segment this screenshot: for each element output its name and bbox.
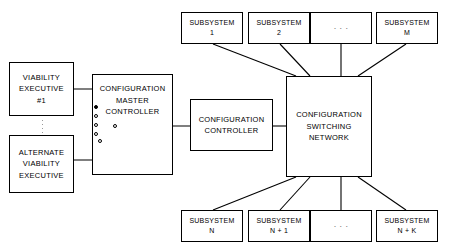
configuration-master-controller-box[interactable]: CONFIGURATION MASTER CONTROLLER <box>92 74 173 175</box>
subsystem-bottom-ellipsis-label: · · · <box>333 221 348 231</box>
subsystem-top-4-box[interactable]: SUBSYSTEM M <box>376 12 438 44</box>
configuration-master-controller-line2: MASTER <box>116 95 149 107</box>
subsystem-bottom-1-line2: N <box>209 226 214 236</box>
executive-continuation-ellipsis <box>38 118 46 134</box>
configuration-controller-box[interactable]: CONFIGURATION CONTROLLER <box>190 99 273 151</box>
switch-contact-4[interactable] <box>94 132 98 136</box>
viability-executive-primary-line3: #1 <box>37 95 46 107</box>
configuration-switching-network-line3: NETWORK <box>309 132 349 144</box>
configuration-master-controller-line3: CONTROLLER <box>106 106 160 118</box>
viability-executive-primary-line2: EXECUTIVE <box>19 83 64 95</box>
subsystem-top-2-box[interactable]: SUBSYSTEM 2 <box>248 12 310 44</box>
wire-csn-to-subsystem-bottom-1 <box>213 177 296 210</box>
subsystem-bottom-ellipsis-box: · · · <box>310 210 372 242</box>
configuration-switching-network-line1: CONFIGURATION <box>296 109 362 121</box>
switch-contact-3[interactable] <box>94 123 98 127</box>
subsystem-top-1-line1: SUBSYSTEM <box>190 18 235 28</box>
configuration-master-controller-line1: CONFIGURATION <box>100 83 166 95</box>
subsystem-bottom-2-box[interactable]: SUBSYSTEM N + 1 <box>248 210 310 242</box>
switch-wiper-pivot[interactable] <box>113 124 117 128</box>
viability-executive-alternate-line3: EXECUTIVE <box>19 170 64 182</box>
switch-contact-5[interactable] <box>98 139 102 143</box>
subsystem-top-1-box[interactable]: SUBSYSTEM 1 <box>181 12 243 44</box>
switch-contact-2[interactable] <box>94 114 98 118</box>
subsystem-top-ellipsis-label: · · · <box>333 23 348 33</box>
configuration-controller-line1: CONFIGURATION <box>199 114 265 126</box>
configuration-management-diagram: VIABILITY EXECUTIVE #1 ALTERNATE VIABILI… <box>0 0 452 249</box>
subsystem-bottom-1-box[interactable]: SUBSYSTEM N <box>181 210 243 242</box>
switch-contact-1-selected[interactable] <box>94 105 98 109</box>
viability-executive-alternate-line2: VIABILITY <box>23 158 60 170</box>
subsystem-top-2-line1: SUBSYSTEM <box>257 18 302 28</box>
subsystem-bottom-4-line1: SUBSYSTEM <box>385 216 430 226</box>
subsystem-top-1-line2: 1 <box>210 28 214 38</box>
subsystem-top-4-line1: SUBSYSTEM <box>385 18 430 28</box>
wire-csn-to-subsystem-top-1 <box>213 44 296 76</box>
subsystem-bottom-4-line2: N + K <box>398 226 417 236</box>
configuration-switching-network-box[interactable]: CONFIGURATION SWITCHING NETWORK <box>286 76 372 177</box>
wire-csn-to-subsystem-bottom-4 <box>358 177 406 210</box>
subsystem-top-ellipsis-box: · · · <box>310 12 372 44</box>
configuration-switching-network-line2: SWITCHING <box>306 121 351 133</box>
wire-csn-to-subsystem-top-4 <box>358 44 406 76</box>
subsystem-bottom-1-line1: SUBSYSTEM <box>190 216 235 226</box>
viability-executive-alternate-line1: ALTERNATE <box>19 147 64 159</box>
viability-executive-primary-line1: VIABILITY <box>23 72 60 84</box>
viability-executive-primary-box[interactable]: VIABILITY EXECUTIVE #1 <box>9 62 74 116</box>
subsystem-top-4-line2: M <box>404 28 410 38</box>
subsystem-top-2-line2: 2 <box>277 28 281 38</box>
subsystem-bottom-4-box[interactable]: SUBSYSTEM N + K <box>376 210 438 242</box>
subsystem-bottom-2-line2: N + 1 <box>270 226 288 236</box>
viability-executive-alternate-box[interactable]: ALTERNATE VIABILITY EXECUTIVE <box>9 135 74 193</box>
subsystem-bottom-2-line1: SUBSYSTEM <box>257 216 302 226</box>
configuration-controller-line2: CONTROLLER <box>205 125 259 137</box>
